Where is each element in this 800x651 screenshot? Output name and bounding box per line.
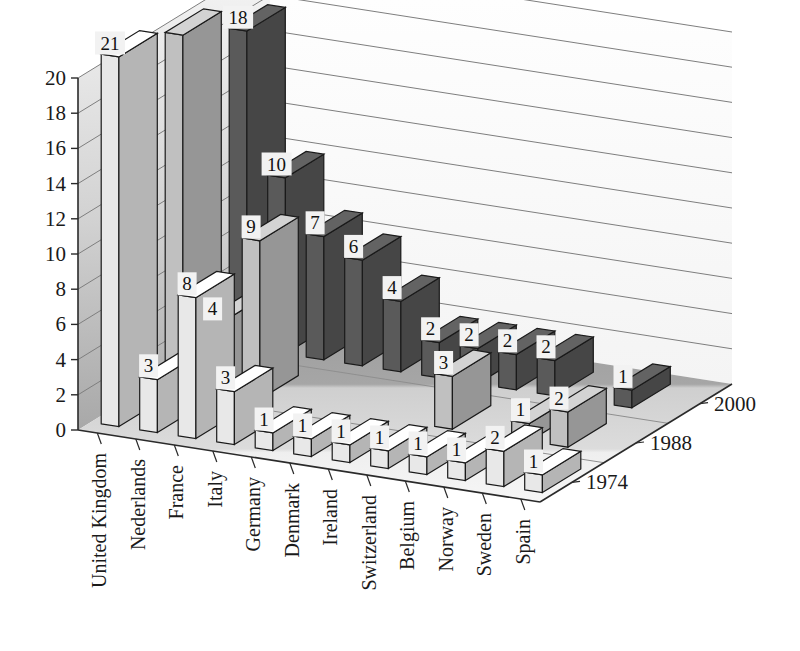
chart-face — [345, 258, 363, 366]
y-axis-tick-label: 8 — [56, 277, 67, 301]
chart-face — [294, 436, 312, 456]
category-axis-tick — [290, 463, 294, 474]
bar-value-label: 10 — [267, 154, 286, 175]
bar-value-label: 1 — [452, 439, 462, 460]
chart-3d-bar: 02468101214161820 United KingdomNederlan… — [0, 0, 800, 651]
category-axis-tick — [97, 433, 101, 444]
category-axis-label: Switzerland — [358, 495, 380, 591]
bar-value-label: 3 — [439, 352, 449, 373]
bar-value-label: 1 — [375, 427, 385, 448]
bar-value-label: 2 — [541, 336, 551, 357]
category-axis-tick — [213, 451, 217, 462]
category-axis-label: Belgium — [396, 501, 419, 570]
chart-face — [486, 449, 504, 487]
chart-face — [614, 388, 632, 408]
y-axis-tick-label: 18 — [45, 101, 66, 125]
chart-face — [448, 460, 466, 480]
chart-face — [435, 374, 453, 430]
y-axis-tick-label: 0 — [56, 418, 67, 442]
category-axis-tick — [136, 439, 140, 450]
category-axis-label: Ireland — [319, 489, 341, 546]
category-axis-label: Italy — [204, 471, 227, 508]
category-axis-tick — [444, 487, 448, 498]
chart-face — [217, 389, 235, 445]
category-axis-tick — [251, 457, 255, 468]
depth-axis-label: 2000 — [714, 392, 756, 416]
bar-value-label: 6 — [349, 236, 359, 257]
bar-value-label: 1 — [336, 421, 346, 442]
depth-axis-label: 1974 — [586, 470, 629, 494]
chart-face — [525, 472, 543, 492]
category-axis-label: France — [165, 465, 187, 520]
category-axis-label: United Kingdom — [88, 453, 111, 588]
category-axis-label: Denmark — [281, 483, 303, 557]
category-axis-label: Germany — [242, 477, 265, 551]
bar-value-label: 3 — [144, 355, 154, 376]
bar-value-label: 2 — [554, 388, 564, 409]
bar-value-label: 1 — [298, 415, 308, 436]
category-axis-label: Nederlands — [127, 459, 149, 550]
chart-face — [371, 448, 389, 468]
y-axis-tick-label: 14 — [45, 172, 67, 196]
bar-value-label: 18 — [229, 7, 248, 28]
chart-face — [178, 295, 196, 439]
chart-face — [255, 430, 273, 450]
bar-value-label: 9 — [246, 216, 256, 237]
category-axis-label: Sweden — [473, 513, 495, 576]
bar-value-label: 1 — [529, 451, 539, 472]
category-axis-label: Spain — [512, 519, 535, 565]
chart-face — [332, 442, 350, 462]
bar-value-label: 3 — [221, 367, 231, 388]
depth-axis-label: 1988 — [650, 431, 692, 455]
category-axis-tick — [482, 493, 486, 504]
bar-value-label: 1 — [618, 366, 628, 387]
category-axis-tick — [521, 499, 525, 510]
chart-face — [383, 299, 401, 372]
bar-value-label: 2 — [490, 427, 500, 448]
bar-value-label: 1 — [413, 433, 423, 454]
bar-value-label: 7 — [310, 212, 320, 233]
bar-value-label: 21 — [101, 33, 120, 54]
bar-value-label: 8 — [182, 273, 192, 294]
y-axis-tick-label: 2 — [56, 383, 67, 407]
y-axis-tick-label: 10 — [45, 242, 66, 266]
category-axis-tick — [328, 469, 332, 480]
category-axis-tick — [174, 445, 178, 456]
y-axis-tick-labels: 02468101214161820 — [45, 66, 78, 442]
y-axis-tick-label: 20 — [45, 66, 66, 90]
category-axis-tick — [367, 475, 371, 486]
category-axis-label: Norway — [435, 507, 458, 571]
y-axis-tick-label: 16 — [45, 136, 66, 160]
bar-value-label: 1 — [516, 399, 526, 420]
chart-face — [550, 409, 568, 447]
chart-face — [499, 352, 517, 390]
chart-face — [306, 234, 324, 360]
bar-value-label: 2 — [464, 324, 474, 345]
bar-value-label: 4 — [208, 298, 218, 319]
bar-value-label: 1 — [259, 409, 269, 430]
bar-value-label: 2 — [426, 318, 436, 339]
category-axis-tick — [405, 481, 409, 492]
y-axis-tick-label: 4 — [56, 348, 67, 372]
bar-value-label: 2 — [503, 330, 513, 351]
chart-canvas: 02468101214161820 United KingdomNederlan… — [0, 0, 800, 651]
y-axis-tick-label: 12 — [45, 207, 66, 231]
chart-face — [409, 454, 427, 474]
chart-face — [101, 54, 119, 426]
bar-value-label: 4 — [387, 277, 397, 298]
chart-face — [140, 377, 158, 433]
y-axis-tick-label: 6 — [56, 312, 67, 336]
